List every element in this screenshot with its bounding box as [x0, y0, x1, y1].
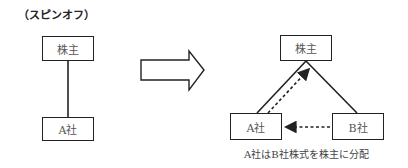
left-company-a-box: A社: [42, 117, 94, 141]
right-shareholder-label: 株主: [295, 40, 317, 56]
right-company-a-label: A社: [247, 119, 266, 135]
line-b-to-shareholder: [306, 61, 357, 113]
right-shareholder-box: 株主: [280, 35, 332, 61]
block-arrow-icon: [141, 51, 204, 90]
right-company-b-label: B社: [348, 119, 367, 135]
connectors: [0, 0, 408, 168]
left-shareholder-label: 株主: [57, 41, 79, 57]
right-company-b-box: B社: [332, 113, 384, 140]
diagram-caption: A社はB社株式を株主に分配: [244, 146, 369, 161]
dashed-arrow-a-to-shareholder: [268, 70, 308, 113]
left-shareholder-box: 株主: [42, 36, 94, 61]
left-company-a-label: A社: [59, 121, 78, 137]
line-a-to-shareholder: [257, 61, 306, 113]
right-company-a-box: A社: [230, 113, 282, 140]
